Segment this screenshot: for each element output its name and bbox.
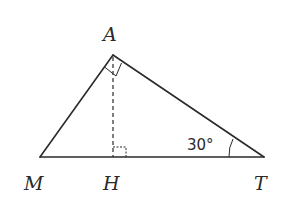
side-am [40, 55, 113, 157]
right-angle-mark-h [113, 147, 126, 157]
vertex-label-m: M [23, 172, 44, 194]
angle-arc-t [229, 139, 233, 157]
triangle-diagram: A M H T 30° [0, 0, 283, 204]
angle-label-t: 30° [187, 136, 214, 154]
vertex-label-a: A [101, 23, 117, 45]
vertex-label-t: T [254, 172, 268, 194]
vertex-label-h: H [102, 172, 120, 194]
